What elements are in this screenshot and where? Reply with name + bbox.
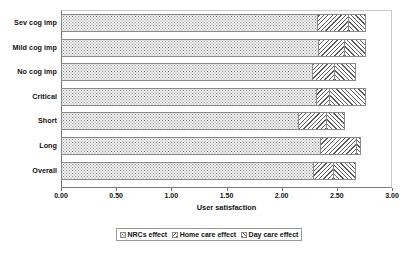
bar-segment-nrcs-effect (61, 137, 321, 155)
bar-segment-day-care-effect (357, 137, 361, 155)
y-axis-label-overall: Overall (0, 162, 57, 180)
bar-segment-nrcs-effect (61, 112, 299, 130)
y-axis-label-sev-cog-imp: Sev cog imp (0, 14, 57, 32)
bar-row (61, 39, 392, 57)
x-tick-label: 1.50 (220, 192, 234, 199)
x-tick-mark (392, 188, 393, 191)
x-tick-label: 0.00 (54, 192, 68, 199)
bar-segment-home-care-effect (314, 162, 334, 180)
bar-segment-day-care-effect (330, 88, 365, 106)
x-axis-ticks: 0.000.501.001.502.002.503.00 (61, 188, 392, 204)
legend-label: Day care effect (249, 231, 299, 238)
bar-row (61, 63, 392, 81)
bar-segment-nrcs-effect (61, 162, 314, 180)
legend-label: Home care effect (180, 231, 236, 238)
x-tick-mark (61, 188, 62, 191)
bar-row (61, 162, 392, 180)
y-axis-category-labels: Sev cog impMild cog impNo cog impCritica… (0, 10, 57, 188)
x-tick-label: 1.00 (165, 192, 179, 199)
bar-segment-nrcs-effect (61, 88, 317, 106)
chart-container: Sev cog impMild cog impNo cog impCritica… (0, 0, 407, 255)
legend-swatch-icon (172, 232, 178, 238)
bar-segment-home-care-effect (313, 63, 335, 81)
bar-segment-nrcs-effect (61, 63, 313, 81)
bar-row (61, 88, 392, 106)
stacked-bars-layer (61, 10, 392, 188)
bar-segment-nrcs-effect (61, 39, 319, 57)
legend-item-nrcs-effect: NRCs effect (120, 231, 167, 238)
x-tick-mark (171, 188, 172, 191)
bar-segment-home-care-effect (321, 137, 356, 155)
bar-segment-nrcs-effect (61, 14, 318, 32)
x-tick-mark (116, 188, 117, 191)
legend-label: NRCs effect (128, 231, 168, 238)
x-tick-mark (282, 188, 283, 191)
x-tick-mark (337, 188, 338, 191)
x-axis-title: User satisfaction (61, 203, 392, 212)
bar-segment-home-care-effect (299, 112, 327, 130)
y-axis-label-mild-cog-imp: Mild cog imp (0, 39, 57, 57)
bar-row (61, 112, 392, 130)
bar-segment-home-care-effect (317, 88, 330, 106)
legend-swatch-icon (120, 232, 126, 238)
bar-segment-home-care-effect (319, 39, 344, 57)
x-tick-label: 2.00 (275, 192, 289, 199)
bar-segment-day-care-effect (327, 112, 345, 130)
y-axis-label-no-cog-imp: No cog imp (0, 63, 57, 81)
bar-row (61, 137, 392, 155)
bar-row (61, 14, 392, 32)
bar-segment-day-care-effect (345, 39, 366, 57)
bar-segment-day-care-effect (349, 14, 366, 32)
y-axis-label-critical: Critical (0, 88, 57, 106)
bar-segment-day-care-effect (335, 63, 356, 81)
x-tick-mark (227, 188, 228, 191)
bar-segment-home-care-effect (318, 14, 349, 32)
x-tick-label: 0.50 (109, 192, 123, 199)
legend-item-home-care-effect: Home care effect (172, 231, 236, 238)
bar-segment-day-care-effect (334, 162, 356, 180)
x-tick-label: 2.50 (330, 192, 344, 199)
y-axis-label-long: Long (0, 137, 57, 155)
y-axis-label-short: Short (0, 112, 57, 130)
x-tick-label: 3.00 (385, 192, 399, 199)
legend-swatch-icon (241, 232, 247, 238)
legend-item-day-care-effect: Day care effect (241, 231, 298, 238)
chart-legend: NRCs effectHome care effectDay care effe… (116, 228, 302, 241)
